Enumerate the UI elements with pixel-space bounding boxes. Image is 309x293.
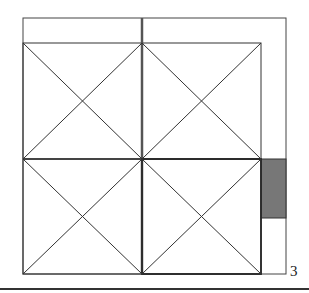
cell-bottom-right-diagonals (142, 159, 261, 274)
figure-label: 3 (290, 264, 298, 279)
cell-top-left-diagonals (23, 43, 142, 159)
shaded-rectangle (261, 159, 286, 218)
bottom-rule (0, 288, 309, 290)
cell-bottom-left-diagonals (23, 159, 142, 274)
square-grid-diagram (0, 0, 309, 293)
cell-top-right-diagonals (142, 43, 261, 159)
